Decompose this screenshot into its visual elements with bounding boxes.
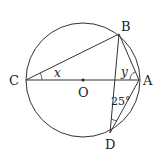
point-a-label: A [142, 73, 153, 88]
point-d-label: D [105, 137, 115, 152]
angle-arc-25 [111, 119, 116, 121]
center-dot [82, 79, 85, 82]
point-b-label: B [121, 19, 131, 34]
point-o-label: O [78, 85, 89, 100]
angle-x-label: x [54, 66, 61, 80]
angle-arc-y [130, 72, 135, 80]
angle-y-label: y [120, 65, 128, 79]
circle-diagram: C A B D O x y 25° [0, 0, 161, 152]
angle-25-label: 25° [111, 95, 131, 108]
angle-arc-x [40, 73, 42, 80]
chord-cb [26, 34, 119, 80]
point-c-label: C [9, 73, 19, 88]
